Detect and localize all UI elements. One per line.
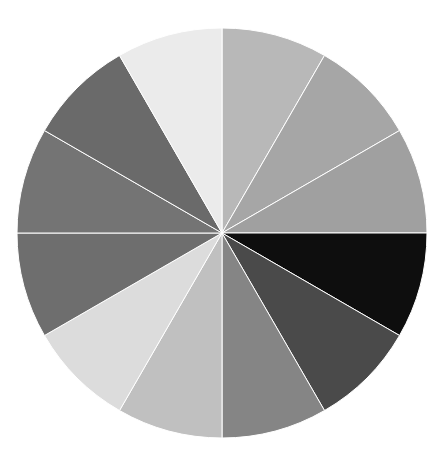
pie-chart-canvas — [0, 0, 439, 473]
pie-chart — [0, 0, 439, 473]
